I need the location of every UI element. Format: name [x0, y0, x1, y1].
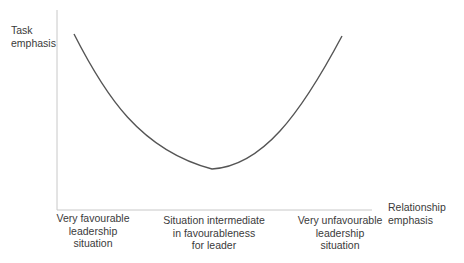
x-category-intermediate: Situation intermediate in favourableness…	[152, 214, 276, 252]
x-category-very-unfavourable: Very unfavourable leadership situation	[285, 214, 395, 252]
y-axis-label: Task emphasis	[11, 24, 56, 49]
x-category-very-favourable: Very favourable leadership situation	[38, 212, 148, 250]
x-axis-label: Relationship emphasis	[388, 201, 446, 226]
u-curve	[74, 34, 342, 169]
